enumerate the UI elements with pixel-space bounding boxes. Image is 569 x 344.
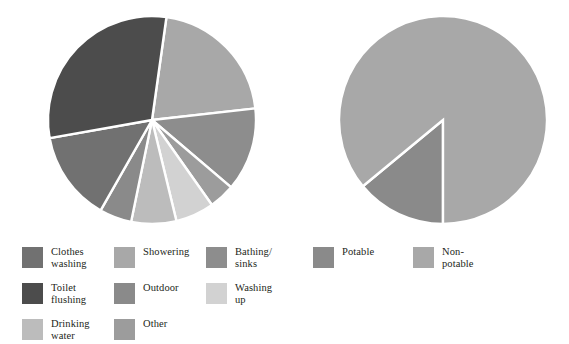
legend-label-drinking-water: Drinking water [51, 318, 90, 341]
pie-slice-showering[interactable] [152, 17, 255, 120]
legend-swatch-outdoor [114, 283, 135, 304]
legend-potable-vs-non-potable: PotableNon- potable [313, 246, 513, 282]
legend-swatch-clothes-washing [22, 247, 43, 268]
legend-right-column: Non- potable [413, 246, 513, 282]
legend-left-item-other[interactable]: Other [114, 318, 206, 344]
pie-chart-potable-vs-non-potable [339, 16, 547, 224]
legend-label-non-potable: Non- potable [442, 246, 474, 269]
legend-right-item-non-potable[interactable]: Non- potable [413, 246, 513, 276]
legend-swatch-bathing-sinks [206, 247, 227, 268]
legend-swatch-other [114, 319, 135, 340]
legend-left-item-bathing-sinks[interactable]: Bathing/ sinks [206, 246, 298, 276]
legend-swatch-drinking-water [22, 319, 43, 340]
pie-left-canvas [48, 16, 256, 224]
legend-label-outdoor: Outdoor [143, 282, 179, 294]
legend-left-item-toilet-flushing[interactable]: Toilet flushing [22, 282, 114, 312]
legend-household-water-use: Clothes washingToilet flushingDrinking w… [22, 246, 298, 344]
pie-right-canvas [339, 16, 547, 224]
legend-label-potable: Potable [342, 246, 374, 258]
legend-swatch-potable [313, 247, 334, 268]
legend-left-column: Bathing/ sinksWashing up [206, 246, 298, 344]
legend-right-item-potable[interactable]: Potable [313, 246, 413, 276]
legend-swatch-showering [114, 247, 135, 268]
legend-label-clothes-washing: Clothes washing [51, 246, 87, 269]
legend-label-washing-up: Washing up [235, 282, 272, 305]
legend-left-item-outdoor[interactable]: Outdoor [114, 282, 206, 312]
legend-label-bathing-sinks: Bathing/ sinks [235, 246, 272, 269]
legend-left-item-clothes-washing[interactable]: Clothes washing [22, 246, 114, 276]
pie-slice-toilet-flushing[interactable] [48, 16, 166, 138]
pie-chart-household-water-use [48, 16, 256, 224]
legend-left-item-drinking-water[interactable]: Drinking water [22, 318, 114, 344]
legend-left-column: Clothes washingToilet flushingDrinking w… [22, 246, 114, 344]
legend-right-column: Potable [313, 246, 413, 282]
legend-left-item-showering[interactable]: Showering [114, 246, 206, 276]
legend-left-column: ShoweringOutdoorOther [114, 246, 206, 344]
legend-swatch-non-potable [413, 247, 434, 268]
legend-label-other: Other [143, 318, 167, 330]
legend-label-toilet-flushing: Toilet flushing [51, 282, 86, 305]
legend-label-showering: Showering [143, 246, 189, 258]
legend-left-item-washing-up[interactable]: Washing up [206, 282, 298, 312]
legend-swatch-washing-up [206, 283, 227, 304]
legend-swatch-toilet-flushing [22, 283, 43, 304]
